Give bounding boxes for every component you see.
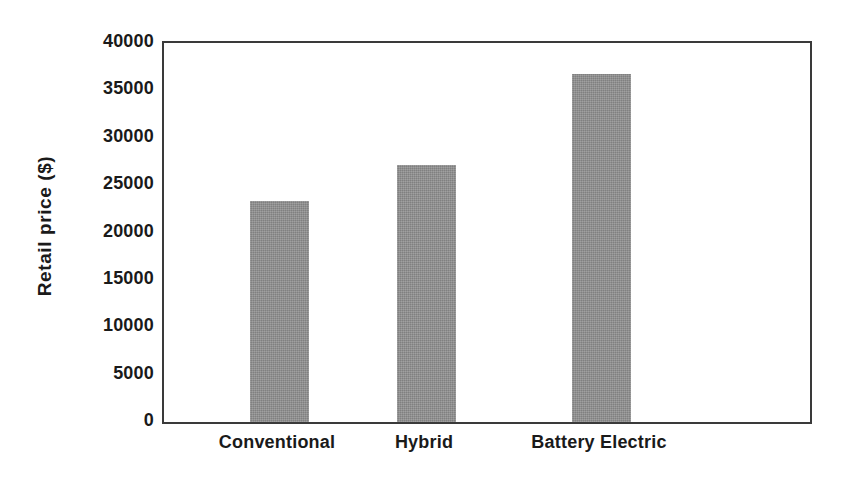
bar bbox=[572, 74, 631, 422]
x-axis-tick-label: Conventional bbox=[219, 432, 335, 453]
y-axis-tick-label: 20000 bbox=[103, 220, 154, 241]
y-axis-title-label: Retail price ($) bbox=[34, 155, 56, 296]
y-axis-tick-label: 5000 bbox=[113, 362, 154, 383]
y-axis-tick-label: 10000 bbox=[103, 315, 154, 336]
x-axis-tick-label: Battery Electric bbox=[531, 432, 666, 453]
x-axis-tick-label: Hybrid bbox=[395, 432, 453, 453]
bar-chart: Retail price ($) 05000100001500020000250… bbox=[0, 0, 851, 486]
y-axis-tick-label: 15000 bbox=[103, 267, 154, 288]
y-axis-tick-label: 35000 bbox=[103, 78, 154, 99]
y-axis-tick-label: 40000 bbox=[103, 31, 154, 52]
bar bbox=[250, 201, 309, 422]
x-axis-tick-labels: ConventionalHybridBattery Electric bbox=[162, 432, 808, 472]
y-axis-tick-label: 25000 bbox=[103, 173, 154, 194]
y-axis-tick-labels: 0500010000150002000025000300003500040000 bbox=[60, 41, 154, 420]
y-axis-tick-label: 0 bbox=[144, 410, 154, 431]
y-axis-tick-label: 30000 bbox=[103, 125, 154, 146]
plot-area bbox=[162, 41, 812, 424]
bars-layer bbox=[164, 43, 810, 422]
bar bbox=[397, 165, 456, 422]
